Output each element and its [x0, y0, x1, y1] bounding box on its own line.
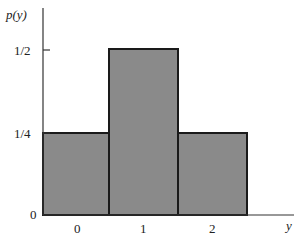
y-tick-label-half: 1/2	[14, 44, 31, 57]
chart-canvas	[0, 0, 300, 245]
x-tick-label-2: 2	[209, 222, 216, 235]
y-tick-label-zero: 0	[30, 208, 37, 221]
probability-histogram: p(y) 1/2 1/4 0 0 1 2 y	[0, 0, 300, 245]
y-tick-label-quarter: 1/4	[14, 127, 31, 140]
x-tick-label-0: 0	[74, 222, 81, 235]
x-tick-label-1: 1	[140, 222, 147, 235]
bar-y-2	[178, 133, 247, 215]
bar-y-0	[43, 133, 109, 215]
y-axis-label: p(y)	[6, 8, 27, 21]
x-axis-label: y	[286, 219, 292, 232]
bar-y-1	[109, 49, 178, 215]
y-axis-label-text: p(y)	[6, 7, 27, 22]
